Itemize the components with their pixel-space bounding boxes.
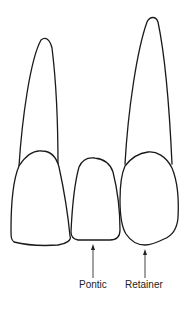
left-tooth-crown (11, 151, 70, 246)
retainer-arrow-head (143, 249, 147, 255)
right-tooth-root (125, 18, 172, 165)
retainer-label: Retainer (125, 279, 163, 290)
pontic-arrow-head (91, 244, 95, 250)
pontic-crown (71, 158, 120, 240)
tooth-diagram (0, 0, 194, 310)
retainer-crown (120, 152, 178, 245)
left-tooth-root (19, 38, 58, 166)
pontic-label: Pontic (79, 279, 107, 290)
